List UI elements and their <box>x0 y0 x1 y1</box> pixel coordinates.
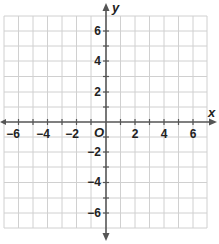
coordinate-plane: y x O −6 −4 −2 2 4 6 6 4 2 −2 −4 −6 <box>0 0 219 244</box>
x-axis <box>0 119 217 126</box>
x-axis-left-arrow-icon <box>0 119 6 125</box>
x-tick-label: −6 <box>6 127 20 141</box>
x-tick-label: 2 <box>132 127 139 141</box>
x-axis-label: x <box>207 105 216 120</box>
y-tick-label: 4 <box>94 54 101 68</box>
y-axis-down-arrow-icon <box>103 233 110 241</box>
y-tick-label: −4 <box>87 175 101 189</box>
y-axis-up-arrow-icon <box>103 3 110 11</box>
y-tick-label: 2 <box>94 85 101 99</box>
origin-label: O <box>94 125 104 140</box>
y-tick-label: 6 <box>94 24 101 38</box>
y-tick-label: −6 <box>87 206 101 220</box>
x-tick-label: −2 <box>65 127 79 141</box>
x-tick-label: 6 <box>190 127 197 141</box>
x-tick-label: 4 <box>161 127 168 141</box>
y-axis-label: y <box>111 0 120 15</box>
x-tick-label: −4 <box>36 127 50 141</box>
y-tick-label: −2 <box>87 145 101 159</box>
